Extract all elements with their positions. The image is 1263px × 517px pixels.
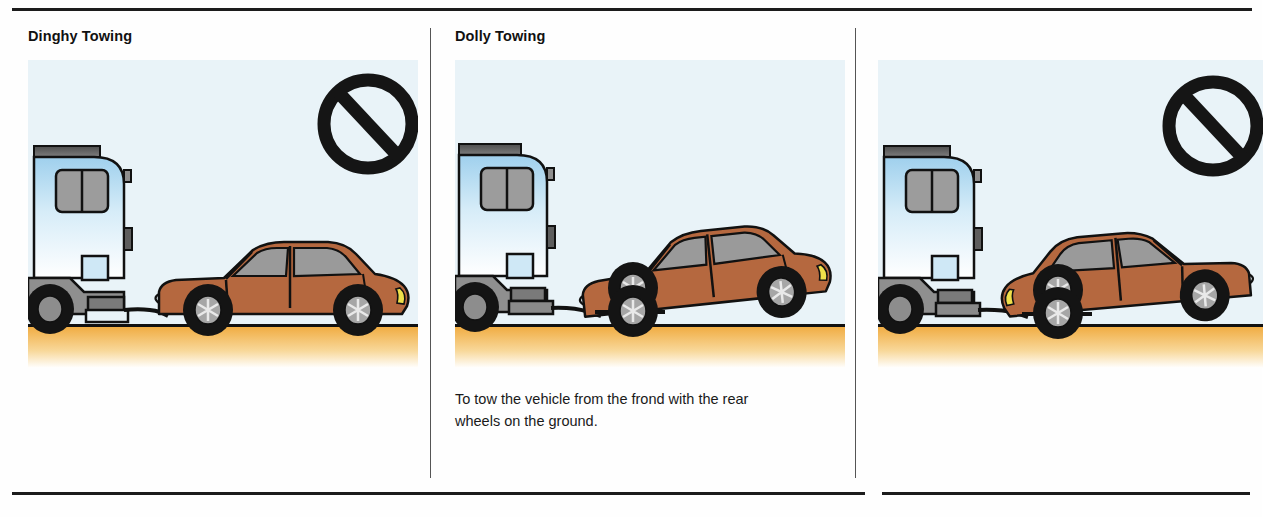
panel-dinghy-towing: Dinghy Towing — [28, 28, 418, 388]
panel-title: Dolly Towing — [455, 28, 845, 48]
illustration-rear-towing — [878, 60, 1263, 368]
column-divider-2 — [855, 28, 856, 478]
illustration-dinghy-towing — [28, 60, 418, 368]
illustration-dolly-towing — [455, 60, 845, 368]
rule-top — [12, 8, 1252, 11]
panel-dolly-towing: Dolly Towing — [455, 28, 845, 433]
rule-bottom-right — [882, 492, 1250, 495]
panel-title: Dinghy Towing — [28, 28, 418, 48]
rule-bottom-left — [12, 492, 865, 495]
column-divider-1 — [430, 28, 431, 478]
panel-rear-towing — [878, 28, 1263, 388]
panel-caption: To tow the vehicle from the frond with t… — [455, 388, 765, 433]
